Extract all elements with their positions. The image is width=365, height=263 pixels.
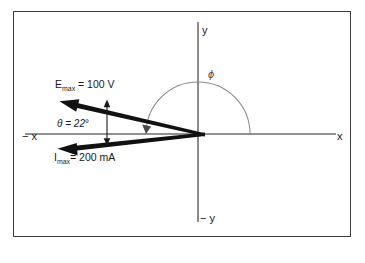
imax-value: = 200 mA	[70, 151, 115, 163]
x-axis-label: x	[337, 131, 343, 142]
negative-x-axis-label: − x	[22, 131, 37, 142]
emax-vector	[70, 102, 205, 137]
theta-symbol: θ	[57, 118, 62, 129]
theta-degree-symbol: °	[85, 118, 89, 129]
imax-label: Imax= 200 mA	[54, 152, 115, 163]
emax-value: = 100 V	[78, 78, 115, 90]
phi-arc-arrowhead	[142, 125, 151, 134]
emax-symbol: E	[55, 78, 62, 90]
phasor-diagram-figure: Emax = 100 V Imax= 200 mA θ = 22° ϕ y − …	[0, 0, 365, 263]
imax-subscript: max	[57, 158, 70, 165]
theta-label: θ = 22°	[57, 119, 89, 129]
emax-arrowhead	[60, 99, 80, 112]
negative-y-axis-label: − y	[200, 213, 215, 224]
emax-subscript: max	[62, 85, 75, 92]
theta-measure-arrow-up	[104, 100, 111, 108]
imax-vector	[70, 133, 205, 152]
phi-label: ϕ	[208, 69, 214, 80]
theta-value: = 22	[65, 118, 85, 129]
y-axis-label: y	[202, 25, 208, 36]
emax-label: Emax = 100 V	[55, 79, 115, 90]
phasor-diagram-canvas	[0, 0, 365, 263]
